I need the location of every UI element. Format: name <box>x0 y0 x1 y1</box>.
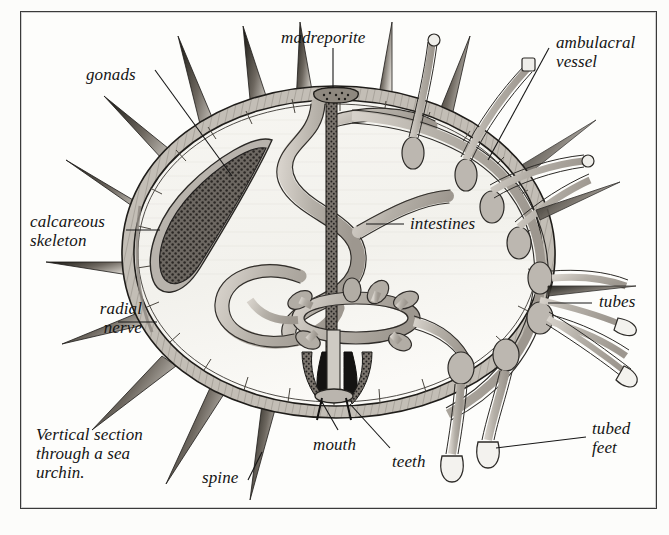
label-spine: spine <box>202 468 238 487</box>
leader-tubed-feet <box>496 437 586 448</box>
label-mouth: mouth <box>313 435 356 454</box>
label-calcareous-skeleton: calcareous skeleton <box>30 212 105 250</box>
illustration-page: gonads madreporite ambulacral vessel cal… <box>0 0 669 535</box>
label-gonads: gonads <box>86 65 136 84</box>
label-radial-nerve: radial nerve <box>66 299 142 337</box>
label-tubed-feet: tubed feet <box>592 419 630 457</box>
label-madreporite: madreporite <box>281 28 366 47</box>
label-tubes: tubes <box>599 292 635 311</box>
label-intestines: intestines <box>410 214 475 233</box>
figure-caption: Vertical section through a sea urchin. <box>36 425 143 482</box>
label-teeth: teeth <box>392 452 426 471</box>
label-ambulacral-vessel: ambulacral vessel <box>556 33 635 71</box>
